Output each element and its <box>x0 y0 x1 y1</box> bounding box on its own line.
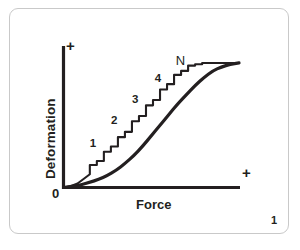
step-annotation-3: 3 <box>132 93 138 105</box>
origin-label: 0 <box>52 186 59 201</box>
figure-number: 1 <box>271 214 277 226</box>
step-annotation-n: N <box>176 53 185 68</box>
chart-axes <box>62 46 240 189</box>
figure-card: Deformation Force 0 + + 1 2 3 4 N 1 <box>9 8 289 234</box>
y-axis-positive-marker: + <box>66 37 75 54</box>
stepwise-ratchet-curve <box>64 63 240 188</box>
step-annotation-2: 2 <box>111 114 117 126</box>
x-axis-positive-marker: + <box>242 164 251 181</box>
step-annotation-1: 1 <box>90 137 96 149</box>
step-annotation-4: 4 <box>155 72 161 84</box>
y-axis-title: Deformation <box>43 98 58 179</box>
x-axis-title: Force <box>136 197 171 212</box>
